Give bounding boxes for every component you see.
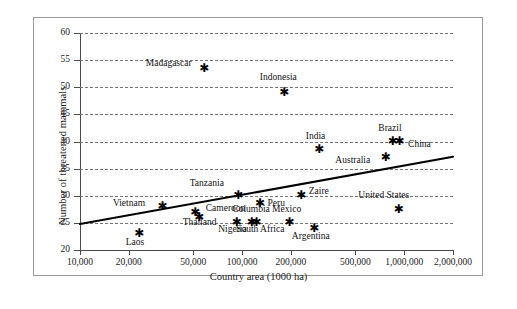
scatter-plot: 202530354045505560 10,00020,00050,000100… <box>0 0 517 309</box>
data-point-marker <box>381 153 390 162</box>
x-tick-200000 <box>291 250 292 255</box>
data-point-label: Argentina <box>292 231 330 241</box>
data-point-label: United States <box>358 190 409 200</box>
y-tick-60 <box>74 33 80 34</box>
x-tick-100000 <box>242 250 243 255</box>
gridline-60 <box>80 33 453 34</box>
x-tick-500000 <box>355 250 356 255</box>
x-tick-1000000 <box>404 250 405 255</box>
data-point-label: Madagascar <box>146 58 192 68</box>
data-point-marker <box>296 191 305 200</box>
data-point-marker <box>394 205 403 214</box>
data-point-marker <box>279 88 288 97</box>
gridline-50 <box>80 87 453 88</box>
data-point-label: Zaire <box>309 186 329 196</box>
y-tick-25 <box>74 223 80 224</box>
y-axis-title: Number of threatened mammals <box>57 87 68 225</box>
x-tick-2000000 <box>453 250 454 255</box>
data-point-label: South Africa <box>236 224 284 234</box>
data-point-marker <box>285 218 294 227</box>
x-tick-20000 <box>129 250 130 255</box>
data-point-marker <box>314 145 323 154</box>
y-tick-label-55: 55 <box>44 55 70 65</box>
data-point-label: Indonesia <box>260 72 297 82</box>
x-tick-label-2000000: 2,000,000 <box>413 257 493 267</box>
data-point-label: Tanzania <box>190 178 224 188</box>
data-point-marker <box>157 202 166 211</box>
data-point-label: Vietnam <box>113 198 145 208</box>
x-tick-50000 <box>193 250 194 255</box>
data-point-marker <box>194 213 203 222</box>
y-tick-35 <box>74 169 80 170</box>
gridline-55 <box>80 60 453 61</box>
data-point-marker <box>199 64 208 73</box>
data-point-label: China <box>408 139 431 149</box>
data-point-label: Laos <box>126 237 144 247</box>
y-tick-55 <box>74 60 80 61</box>
y-tick-30 <box>74 196 80 197</box>
x-axis-line <box>80 250 453 251</box>
gridline-35 <box>80 169 453 170</box>
y-tick-label-60: 60 <box>44 28 70 38</box>
gridline-45 <box>80 114 453 115</box>
data-point-marker <box>395 137 404 146</box>
y-tick-40 <box>74 142 80 143</box>
x-tick-10000 <box>80 250 81 255</box>
data-point-label: Columbia <box>232 204 269 214</box>
data-point-label: Mexico <box>272 204 301 214</box>
y-tick-label-20: 20 <box>44 245 70 255</box>
data-point-label: India <box>306 131 326 141</box>
y-tick-45 <box>74 114 80 115</box>
data-point-label: Australia <box>335 155 370 165</box>
x-axis-title: Country area (1000 ha) <box>0 271 517 282</box>
data-point-marker <box>233 191 242 200</box>
y-tick-50 <box>74 87 80 88</box>
data-point-label: Brazil <box>378 123 401 133</box>
